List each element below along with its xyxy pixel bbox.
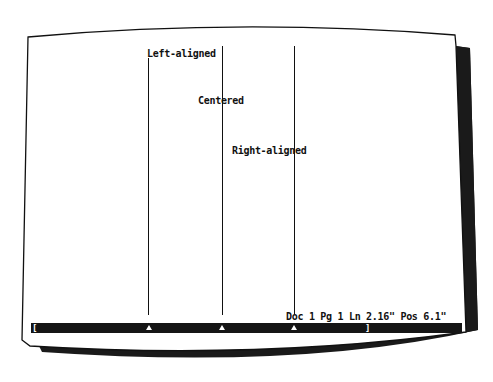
right-tab-stop-icon[interactable] bbox=[291, 325, 297, 330]
left-margin-marker[interactable]: [ bbox=[32, 323, 37, 333]
center-tab-stop-icon[interactable] bbox=[219, 325, 225, 330]
left-guide-line bbox=[148, 58, 149, 315]
screen-face bbox=[22, 27, 466, 351]
tab-ruler[interactable]: [ ] bbox=[31, 323, 462, 333]
status-line: Doc 1 Pg 1 Ln 2.16" Pos 6.1" bbox=[286, 312, 446, 322]
left-aligned-label: Left-aligned bbox=[147, 49, 216, 59]
left-tab-stop-icon[interactable] bbox=[146, 325, 152, 330]
right-guide-line bbox=[294, 46, 295, 314]
center-guide-line bbox=[222, 46, 223, 315]
right-margin-marker[interactable]: ] bbox=[365, 323, 370, 333]
centered-label: Centered bbox=[198, 96, 244, 106]
right-aligned-label: Right-aligned bbox=[232, 146, 306, 156]
